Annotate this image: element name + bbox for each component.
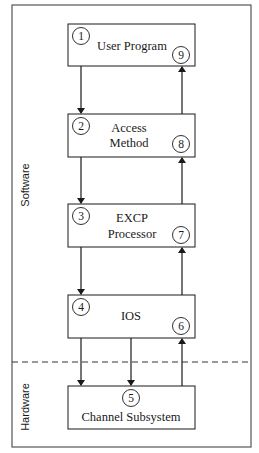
step-circle-2: 2: [73, 118, 90, 135]
step-circle-4: 4: [73, 299, 90, 316]
svg-text:6: 6: [178, 320, 184, 332]
box-ios: 4 IOS 6: [68, 295, 195, 338]
box-label: User Program: [97, 39, 167, 53]
box-access-method: 2 Access Method 8: [68, 114, 195, 157]
box-channel-subsystem: 5 Channel Subsystem: [68, 386, 195, 429]
io-flow-diagram: Software Hardware 1 User Program 9 2 Acc…: [0, 0, 259, 453]
step-circle-3: 3: [73, 208, 90, 225]
svg-text:3: 3: [78, 210, 84, 222]
svg-text:2: 2: [78, 120, 84, 132]
box-label-line1: Access: [111, 121, 147, 135]
box-label: IOS: [121, 309, 141, 323]
step-circle-7: 7: [173, 227, 190, 244]
hardware-region-label: Hardware: [19, 383, 31, 431]
box-excp-processor: 3 EXCP Processor 7: [68, 204, 195, 247]
svg-text:4: 4: [78, 301, 84, 313]
step-circle-6: 6: [173, 318, 190, 335]
box-label-line1: EXCP: [116, 211, 148, 225]
svg-text:1: 1: [78, 30, 84, 42]
software-region-label: Software: [19, 163, 31, 206]
step-circle-1: 1: [73, 28, 90, 45]
box-label: Channel Subsystem: [82, 410, 181, 424]
svg-text:9: 9: [178, 49, 184, 61]
box-label-line2: Method: [110, 136, 150, 150]
step-circle-9: 9: [173, 47, 190, 64]
svg-text:8: 8: [178, 138, 184, 150]
box-label-line2: Processor: [108, 227, 157, 241]
box-user-program: 1 User Program 9: [68, 24, 195, 66]
step-circle-5: 5: [123, 390, 140, 407]
step-circle-8: 8: [173, 136, 190, 153]
svg-text:5: 5: [128, 392, 134, 404]
svg-text:7: 7: [178, 229, 184, 241]
